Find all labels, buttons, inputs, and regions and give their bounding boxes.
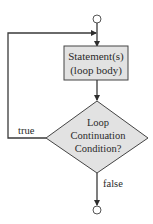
body-line1: Statement(s) xyxy=(68,50,124,63)
false-label: false xyxy=(103,178,123,189)
end-node xyxy=(93,206,101,214)
loop-flowchart: Statement(s) (loop body) Loop Continuati… xyxy=(0,0,153,224)
true-label: true xyxy=(18,125,35,136)
loop-body-box: Statement(s) (loop body) xyxy=(64,46,128,80)
condition-diamond: Loop Continuation Condition? xyxy=(46,101,148,173)
condition-line1: Loop xyxy=(87,117,109,128)
body-line2: (loop body) xyxy=(70,64,122,77)
start-node xyxy=(93,15,101,23)
condition-line3: Condition? xyxy=(75,143,122,154)
condition-line2: Continuation xyxy=(71,130,127,141)
